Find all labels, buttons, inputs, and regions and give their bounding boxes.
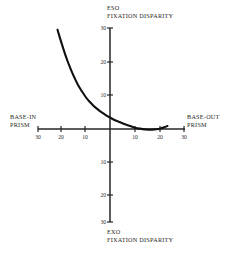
eso-axis-label: ESO FIXATION DISPARITY bbox=[107, 4, 173, 20]
tick-marks-group bbox=[38, 28, 184, 222]
axes-group bbox=[38, 28, 185, 222]
fixation-disparity-figure: ESO FIXATION DISPARITY EXO FIXATION DISP… bbox=[0, 0, 235, 255]
eso-label-line2: FIXATION DISPARITY bbox=[107, 12, 173, 20]
base-out-axis-label: BASE-OUT PRISM bbox=[187, 113, 220, 129]
y-tick-label-plus20: 20 bbox=[96, 59, 106, 65]
y-tick-label-minus30: 30 bbox=[96, 219, 106, 225]
exo-axis-label: EXO FIXATION DISPARITY bbox=[107, 228, 173, 244]
y-tick-label-minus20: 20 bbox=[96, 192, 106, 198]
exo-label-line1: EXO bbox=[107, 228, 173, 236]
x-tick-label-plus10: 10 bbox=[132, 134, 138, 140]
base-out-label-line1: BASE-OUT bbox=[187, 113, 220, 121]
fixation-disparity-curve bbox=[58, 30, 168, 130]
exo-label-line2: FIXATION DISPARITY bbox=[107, 236, 173, 244]
base-in-axis-label: BASE-IN PRISM bbox=[10, 113, 36, 129]
y-tick-label-plus30: 30 bbox=[96, 25, 106, 31]
x-tick-label-minus10: 10 bbox=[82, 134, 88, 140]
base-in-label-line1: BASE-IN bbox=[10, 113, 36, 121]
x-tick-label-plus30: 30 bbox=[181, 134, 187, 140]
y-tick-label-plus10: 10 bbox=[96, 92, 106, 98]
eso-label-line1: ESO bbox=[107, 4, 173, 12]
x-tick-label-minus30: 30 bbox=[35, 134, 41, 140]
x-tick-label-plus20: 20 bbox=[157, 134, 163, 140]
base-in-label-line2: PRISM bbox=[10, 121, 36, 129]
y-tick-label-minus10: 10 bbox=[96, 159, 106, 165]
base-out-label-line2: PRISM bbox=[187, 121, 220, 129]
x-tick-label-minus20: 20 bbox=[58, 134, 64, 140]
